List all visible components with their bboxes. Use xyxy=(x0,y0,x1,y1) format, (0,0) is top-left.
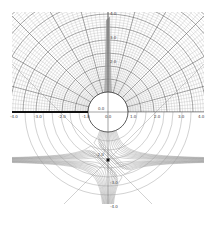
svg-text:2.0: 2.0 xyxy=(110,59,117,64)
grid-line xyxy=(0,155,113,227)
grid-line xyxy=(0,160,108,227)
svg-text:3.0: 3.0 xyxy=(178,114,185,119)
grid-line xyxy=(0,160,108,227)
svg-text:-4.0: -4.0 xyxy=(10,114,18,119)
svg-text:-2.0: -2.0 xyxy=(96,152,104,157)
svg-text:3.0: 3.0 xyxy=(110,35,117,40)
svg-text:-3.0: -3.0 xyxy=(110,180,118,185)
svg-text:-1.0: -1.0 xyxy=(82,114,90,119)
svg-text:4.0: 4.0 xyxy=(198,114,205,119)
svg-text:-3.0: -3.0 xyxy=(34,114,42,119)
svg-text:4.0: 4.0 xyxy=(110,11,117,16)
svg-text:2.0: 2.0 xyxy=(154,114,161,119)
grid-line xyxy=(122,0,214,97)
svg-text:1.0: 1.0 xyxy=(130,114,137,119)
grid-line xyxy=(0,161,107,227)
stagnation-point-marker xyxy=(107,159,110,162)
svg-text:-4.0: -4.0 xyxy=(110,204,118,209)
x-tick-labels: -4.0 -3.0 -2.0 -1.0 0.0 1.0 2.0 3.0 4.0 xyxy=(10,114,205,119)
grid-line xyxy=(0,161,107,227)
svg-text:0.0: 0.0 xyxy=(98,106,105,111)
conformal-map-plot: -4.0 -3.0 -2.0 -1.0 0.0 1.0 2.0 3.0 4.0 … xyxy=(0,0,214,227)
grid-line xyxy=(0,44,89,106)
grid-line xyxy=(121,0,214,97)
grid-line xyxy=(0,0,94,97)
grid-line xyxy=(119,0,214,95)
grid-line xyxy=(0,162,106,227)
svg-text:-2.0: -2.0 xyxy=(58,114,66,119)
grid-line xyxy=(0,162,107,228)
svg-text:0.0: 0.0 xyxy=(105,114,112,119)
